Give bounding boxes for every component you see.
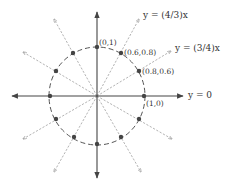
label-point-0.6-0.8: (0.6,0.8): [124, 49, 156, 57]
point-1-0: [142, 94, 146, 98]
point-0.8-neg0.6: [137, 117, 141, 121]
point-0.6-0.8: [119, 51, 123, 55]
ray-neg-4-3-down: [97, 96, 141, 172]
point-neg0.6-0.8: [71, 51, 75, 55]
point-0-neg1: [95, 142, 99, 146]
point-neg1-0: [48, 94, 52, 98]
ray-4-3-down: [54, 96, 97, 172]
label-line-4-3: y = (4/3)x: [143, 11, 188, 20]
ray-neg-3-4-up: [23, 52, 97, 96]
label-point-0-1: (0,1): [99, 39, 117, 47]
point-neg0.8-0.6: [54, 69, 58, 73]
point-neg0.6-neg0.8: [72, 135, 76, 139]
point-neg0.8-neg0.6: [54, 117, 58, 121]
unit-circle-diagram: (0,1) (0.6,0.8) (0.8,0.6) (1,0) y = (4/3…: [0, 0, 225, 186]
label-line-0: y = 0: [188, 91, 212, 100]
ray-3-4-down: [23, 96, 97, 139]
label-point-1-0: (1,0): [146, 100, 164, 108]
label-line-3-4: y = (3/4)x: [175, 44, 220, 53]
axes: [12, 12, 183, 178]
ray-neg-4-3-up: [54, 19, 97, 96]
label-point-0.8-0.6: (0.8,0.6): [142, 68, 174, 76]
ray-4-3-up: [97, 19, 139, 96]
point-0.6-neg0.8: [119, 135, 123, 139]
point-0.8-0.6: [137, 69, 141, 73]
